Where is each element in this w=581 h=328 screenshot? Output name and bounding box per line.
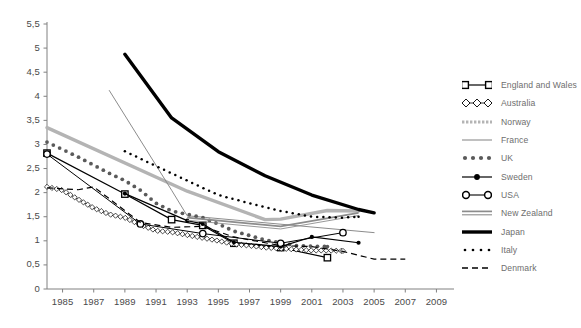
chart-legend: England and WalesAustraliaNorwayFranceUK… bbox=[462, 76, 581, 277]
legend-swatch-dotted-gray-bar-icon bbox=[462, 115, 496, 129]
series-japan bbox=[125, 54, 374, 213]
legend-label: France bbox=[496, 135, 528, 145]
legend-item-sweden[interactable]: Sweden bbox=[462, 167, 581, 185]
legend-label: Norway bbox=[496, 117, 531, 127]
plot-area: 00,511,522,533,544,555,5 198519871989199… bbox=[0, 0, 460, 328]
y-tick-label: 5,5 bbox=[0, 18, 40, 29]
legend-label: New Zealand bbox=[496, 208, 553, 218]
y-tick-label: 4,5 bbox=[0, 66, 40, 77]
legend-item-france[interactable]: France bbox=[462, 131, 581, 149]
y-tick-label: 3 bbox=[0, 138, 40, 149]
legend-swatch-open-diamond-chain-icon bbox=[462, 96, 496, 110]
legend-item-australia[interactable]: Australia bbox=[462, 94, 581, 112]
legend-swatch-double-gray-line-icon bbox=[462, 206, 496, 220]
y-tick-label: 0,5 bbox=[0, 258, 40, 269]
series-usa bbox=[44, 151, 346, 247]
legend-item-uk[interactable]: UK bbox=[462, 149, 581, 167]
legend-swatch-open-square-line-icon bbox=[462, 78, 496, 92]
legend-label: UK bbox=[496, 153, 513, 163]
legend-swatch-filled-dot-line-icon bbox=[462, 170, 496, 184]
legend-swatch-small-dotted-black-icon bbox=[462, 243, 496, 257]
y-tick-label: 5 bbox=[0, 42, 40, 53]
legend-label: Denmark bbox=[496, 263, 537, 273]
legend-item-denmark[interactable]: Denmark bbox=[462, 259, 581, 277]
legend-item-norway[interactable]: Norway bbox=[462, 113, 581, 131]
y-tick-label: 3,5 bbox=[0, 114, 40, 125]
axis-layer bbox=[44, 22, 455, 293]
legend-swatch-thick-dotted-gray-icon bbox=[462, 151, 496, 165]
legend-item-england-and-wales[interactable]: England and Wales bbox=[462, 76, 581, 94]
legend-swatch-thin-gray-line-icon bbox=[462, 133, 496, 147]
y-tick-label: 0 bbox=[0, 283, 40, 294]
legend-label: USA bbox=[496, 190, 519, 200]
legend-item-japan[interactable]: Japan bbox=[462, 222, 581, 240]
y-tick-label: 1,5 bbox=[0, 210, 40, 221]
y-tick-label: 2,5 bbox=[0, 162, 40, 173]
series-layer bbox=[44, 54, 405, 261]
legend-swatch-thick-black-line-icon bbox=[462, 225, 496, 239]
legend-label: Sweden bbox=[496, 172, 533, 182]
y-tick-label: 4 bbox=[0, 90, 40, 101]
x-tick-label: 2009 bbox=[414, 296, 458, 307]
legend-item-new-zealand[interactable]: New Zealand bbox=[462, 204, 581, 222]
y-tick-label: 1 bbox=[0, 234, 40, 245]
chart-screenshot: 00,511,522,533,544,555,5 198519871989199… bbox=[0, 0, 581, 328]
legend-item-italy[interactable]: Italy bbox=[462, 241, 581, 259]
legend-label: Japan bbox=[496, 227, 525, 237]
legend-swatch-dashed-black-line-icon bbox=[462, 261, 496, 275]
legend-swatch-open-circle-line-icon bbox=[462, 188, 496, 202]
legend-item-usa[interactable]: USA bbox=[462, 186, 581, 204]
chart-svg bbox=[0, 0, 460, 328]
y-tick-label: 2 bbox=[0, 186, 40, 197]
legend-label: Australia bbox=[496, 98, 535, 108]
legend-label: Italy bbox=[496, 245, 517, 255]
legend-label: England and Wales bbox=[496, 80, 577, 90]
